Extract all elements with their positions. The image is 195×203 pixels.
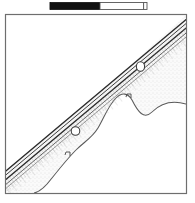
scale-bar-segment-filled xyxy=(50,3,100,10)
stone-circle-lower xyxy=(71,127,80,136)
scale-bar xyxy=(50,3,147,10)
stone-circle-upper xyxy=(136,62,144,72)
scale-bar-segment-open xyxy=(100,3,147,10)
figure-root xyxy=(0,0,195,203)
figure-canvas xyxy=(0,0,195,203)
